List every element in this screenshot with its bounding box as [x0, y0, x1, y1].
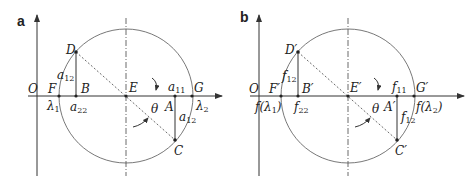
point-B [74, 94, 77, 97]
label-a12-lower: a12 [179, 110, 196, 125]
panel-b-label: b [240, 9, 249, 25]
label-f11: f11 [391, 80, 407, 95]
label-B-prime: B′ [301, 82, 314, 96]
label-C: C [174, 144, 183, 158]
label-F: F [47, 82, 57, 96]
label-E-prime: E′ [349, 81, 362, 95]
label-F-prime: F′ [268, 82, 280, 96]
label-lambda2: λ2 [195, 99, 209, 114]
label-theta-b: θ [372, 102, 380, 116]
label-A-prime: A′ [383, 100, 396, 114]
label-G: G [194, 81, 204, 95]
point-B-prime [296, 94, 299, 97]
point-C-prime [395, 138, 399, 142]
point-F [57, 94, 60, 97]
rotation-arrow-lower-b [355, 118, 370, 127]
label-a11: a11 [168, 80, 185, 95]
label-f22: f22 [293, 100, 309, 115]
panel-a-label: a [17, 13, 25, 29]
label-E: E [128, 81, 138, 95]
label-D-prime: D′ [284, 43, 298, 57]
label-f-lambda1: f(λ1) [254, 100, 282, 115]
panel-a: a O F B E G A D C θ λ1 λ2 a22 [17, 13, 222, 176]
label-G-prime: G′ [416, 81, 429, 95]
label-A: A [164, 100, 174, 114]
rotation-arrow-lower [133, 118, 148, 127]
rotation-arrow-upper [152, 78, 157, 90]
label-theta: θ [151, 102, 159, 116]
point-C [173, 138, 177, 142]
label-O: O [28, 82, 38, 96]
label-f12-upper: f12 [281, 69, 297, 84]
label-B: B [80, 82, 90, 96]
label-a12-upper: a12 [57, 68, 74, 83]
label-a22: a22 [70, 100, 87, 115]
label-O-b: O [249, 82, 259, 96]
label-C-prime: C′ [395, 144, 407, 158]
panel-b: b O F′ B′ E′ G′ A′ D′ C′ θ f(λ1) f(λ2) f… [240, 9, 464, 176]
label-D: D [65, 43, 76, 57]
label-lambda1: λ1 [46, 99, 60, 114]
rotation-arrow-upper-b [374, 78, 379, 90]
point-E [124, 94, 127, 97]
mohr-circle-diagram: a O F B E G A D C θ λ1 λ2 a22 [0, 0, 474, 183]
label-f-lambda2: f(λ2) [415, 100, 443, 115]
